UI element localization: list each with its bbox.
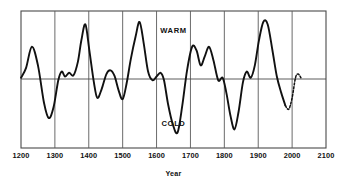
series-line-temperature-anomaly <box>21 20 285 133</box>
data-series-group <box>21 20 301 133</box>
x-tick-label-1800: 1800 <box>216 151 233 160</box>
x-tick-label-1600: 1600 <box>148 151 165 160</box>
x-tick-label-1200: 1200 <box>13 151 30 160</box>
x-tick-label-1700: 1700 <box>182 151 199 160</box>
x-tick-label-1500: 1500 <box>114 151 131 160</box>
x-tick-label-1400: 1400 <box>80 151 97 160</box>
warm-zone-label: WARM <box>160 26 186 35</box>
x-axis-title: Year <box>166 169 182 178</box>
cold-zone-label: COLD <box>162 119 186 128</box>
x-tick-label-1300: 1300 <box>46 151 63 160</box>
x-tick-label-2100: 2100 <box>318 151 335 160</box>
x-tick-label-1900: 1900 <box>250 151 267 160</box>
climate-chart-figure: 1200130014001500160017001800190020002100… <box>0 0 348 190</box>
x-tick-label-2000: 2000 <box>284 151 301 160</box>
